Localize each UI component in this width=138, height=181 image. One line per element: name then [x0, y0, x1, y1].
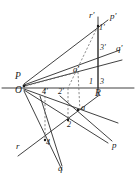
- label-a-prime: a': [73, 65, 79, 74]
- dashed-1prime-to-2prime: [68, 26, 98, 88]
- label-1-prime: 1': [99, 24, 105, 32]
- label-q: q: [58, 164, 63, 173]
- ray-P-to-3prime: [24, 50, 120, 85]
- label-P: P: [15, 72, 21, 82]
- point-P-dot: [23, 85, 26, 88]
- ray-P-to-4: [24, 91, 62, 170]
- label-3: 3: [100, 78, 104, 86]
- label-R: R: [95, 89, 101, 99]
- label-q-prime: q': [116, 44, 122, 53]
- label-2-prime: 2': [58, 88, 64, 96]
- label-4-prime: 4': [42, 88, 48, 96]
- label-4: 4: [46, 139, 50, 147]
- label-3-prime: 3': [100, 44, 106, 52]
- label-r: r: [16, 142, 20, 151]
- label-2: 2: [67, 121, 71, 129]
- label-1: 1: [89, 78, 93, 86]
- label-p: p: [112, 141, 117, 150]
- label-p-prime: p': [110, 12, 116, 21]
- line-r: [18, 96, 98, 156]
- label-O: O: [15, 86, 22, 96]
- dashed-aprime-to-a: [78, 72, 80, 112]
- label-r-prime: r': [89, 11, 94, 20]
- label-a: a: [81, 103, 85, 112]
- geometry-figure: P O R a a' 1 3 1' 3' 2 2' 4 4' p p' q q'…: [0, 0, 138, 181]
- point-a-dot: [77, 109, 79, 111]
